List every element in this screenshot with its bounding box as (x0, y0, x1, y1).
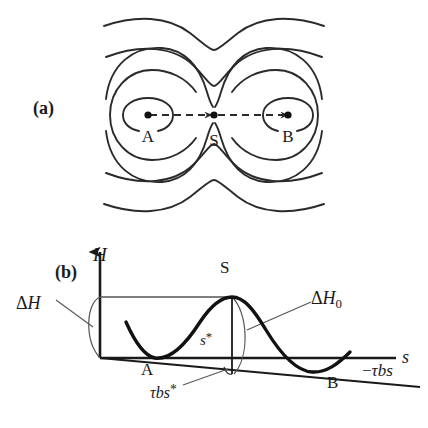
axis-label-h: H (93, 244, 107, 266)
panel-a-label-minimum-b: B (282, 127, 293, 146)
delta-h0-label: ΔH0 (311, 288, 342, 312)
tilt-line-label: −τbs (362, 361, 393, 381)
axis-label-s: s (402, 347, 409, 368)
panel-a-letter: (a) (33, 98, 54, 119)
point-saddle-s (210, 111, 217, 118)
panel-a-label-saddle-s: S (209, 131, 218, 150)
delta-h-label: ΔH (16, 293, 41, 314)
panel-b-label-minimum-a: A (141, 360, 153, 380)
panel-b-letter: (b) (55, 262, 77, 283)
point-minimum-a (144, 111, 151, 118)
panel-b-label-saddle-s: S (220, 258, 229, 278)
s-star-label: s* (200, 330, 212, 349)
panel-a-label-minimum-a: A (142, 127, 155, 146)
panel-b-label-minimum-b: B (327, 373, 338, 393)
point-minimum-b (284, 111, 291, 118)
tau-bs-star-label: τbs* (150, 382, 177, 402)
